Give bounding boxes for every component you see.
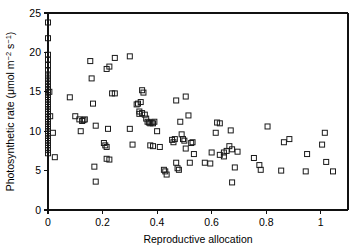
- x-tick-label: 0.4: [150, 216, 165, 228]
- data-point: [174, 98, 179, 103]
- data-point: [88, 59, 93, 64]
- x-tick-label: 0.8: [259, 216, 274, 228]
- x-tick-label: 0: [45, 216, 51, 228]
- data-point: [281, 140, 286, 145]
- data-point: [92, 164, 97, 169]
- data-point: [157, 144, 162, 149]
- data-point: [320, 142, 325, 147]
- data-point: [186, 113, 191, 118]
- y-tick-label: 25: [29, 7, 41, 19]
- data-point: [209, 150, 214, 155]
- y-tick-label: 0: [35, 204, 41, 216]
- scatter-plot-figure: 00.20.40.60.810510152025 Reproductive al…: [0, 0, 354, 249]
- data-point: [89, 76, 94, 81]
- data-point: [127, 126, 132, 131]
- y-tick-label: 10: [29, 125, 41, 137]
- tick-labels-group: 00.20.40.60.810510152025: [29, 7, 323, 228]
- data-point: [213, 130, 218, 135]
- data-point: [265, 124, 270, 129]
- y-tick-label: 20: [29, 46, 41, 58]
- data-point: [155, 129, 160, 134]
- data-point: [287, 137, 292, 142]
- data-point: [228, 128, 233, 133]
- data-point: [112, 55, 117, 60]
- data-point: [191, 152, 196, 157]
- y-axis-title: Photosynthetic rate (μmol m−2 s−1): [4, 32, 17, 192]
- data-markers-group: [46, 20, 336, 185]
- y-tick-label: 5: [35, 164, 41, 176]
- data-point: [91, 101, 96, 106]
- data-point: [208, 161, 213, 166]
- data-point: [67, 95, 72, 100]
- data-point: [174, 160, 179, 165]
- data-point: [324, 159, 329, 164]
- x-tick-label: 0.6: [204, 216, 219, 228]
- data-point: [52, 155, 57, 160]
- x-tick-label: 0.2: [95, 216, 110, 228]
- data-point: [232, 165, 237, 170]
- plot-canvas: 00.20.40.60.810510152025 Reproductive al…: [0, 0, 354, 249]
- data-point: [182, 138, 187, 143]
- data-point: [93, 179, 98, 184]
- x-tick-label: 1: [318, 216, 324, 228]
- data-point: [187, 160, 192, 165]
- y-tick-label: 15: [29, 85, 41, 97]
- data-point: [176, 167, 181, 172]
- data-point: [183, 94, 188, 99]
- data-point: [322, 130, 327, 135]
- data-point: [183, 146, 188, 151]
- data-point: [175, 166, 180, 171]
- data-point: [230, 180, 235, 185]
- data-point: [127, 54, 132, 59]
- data-point: [331, 169, 336, 174]
- data-point: [163, 169, 168, 174]
- data-point: [78, 129, 83, 134]
- data-point: [303, 169, 308, 174]
- data-point: [279, 168, 284, 173]
- data-point: [178, 119, 183, 124]
- data-point: [235, 149, 240, 154]
- axes-group: [44, 13, 348, 214]
- x-axis-title: Reproductive allocation: [143, 233, 252, 245]
- data-point: [106, 126, 111, 131]
- data-point: [93, 123, 98, 128]
- data-point: [50, 130, 55, 135]
- data-point: [251, 155, 256, 160]
- data-point: [305, 152, 310, 157]
- data-point: [130, 142, 135, 147]
- data-point: [202, 160, 207, 165]
